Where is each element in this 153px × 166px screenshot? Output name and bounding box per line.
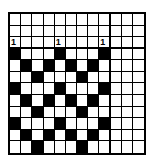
grid-cell <box>133 83 144 95</box>
grid-cell <box>111 37 122 49</box>
grid-cell <box>77 130 88 142</box>
grid-cell-filled <box>88 95 99 107</box>
grid-cell <box>99 26 110 38</box>
grid-cell <box>55 107 66 119</box>
grid-cell <box>133 130 144 142</box>
grid-cell <box>133 26 144 38</box>
grid-cell <box>99 130 110 142</box>
grid-cell <box>111 141 122 153</box>
grid-cell <box>10 95 21 107</box>
grid-cell-filled <box>32 72 43 84</box>
grid-cell <box>55 26 66 38</box>
grid-cell-filled <box>55 83 66 95</box>
grid-cell-filled <box>21 60 32 72</box>
grid-cell <box>21 37 32 49</box>
grid-cell <box>111 60 122 72</box>
grid-cell <box>88 14 99 26</box>
grid-cell <box>88 26 99 38</box>
grid-cell-filled <box>77 107 88 119</box>
grid-cell <box>55 14 66 26</box>
grid-cell <box>55 95 66 107</box>
grid-cell-filled <box>21 95 32 107</box>
grid-cell <box>111 49 122 61</box>
grid-cell <box>66 26 77 38</box>
grid-cell <box>32 37 43 49</box>
grid-cell <box>122 130 133 142</box>
grid-cell <box>88 49 99 61</box>
grid-cell <box>21 118 32 130</box>
grid-cell <box>111 72 122 84</box>
grid-cell <box>122 107 133 119</box>
grid-cell <box>133 118 144 130</box>
grid-cell <box>10 130 21 142</box>
grid-cell <box>111 95 122 107</box>
grid-cell <box>133 72 144 84</box>
grid-cell-filled <box>66 130 77 142</box>
grid-cell-filled <box>10 118 21 130</box>
grid-cell <box>133 49 144 61</box>
grid-cell <box>99 72 110 84</box>
grid-cell <box>111 130 122 142</box>
grid-cell <box>32 60 43 72</box>
grid-cell-filled <box>77 72 88 84</box>
grid-cell-filled <box>32 141 43 153</box>
grid-cell <box>66 37 77 49</box>
grid-cell <box>21 26 32 38</box>
grid-cell <box>21 72 32 84</box>
grid-cell <box>10 107 21 119</box>
grid-cell <box>122 14 133 26</box>
grid-cell <box>122 72 133 84</box>
grid-cell <box>32 118 43 130</box>
grid-cell <box>77 14 88 26</box>
grid-cell <box>21 49 32 61</box>
grid-cell <box>44 118 55 130</box>
grid-cell <box>88 37 99 49</box>
grid-cell <box>32 26 43 38</box>
grid-cell <box>99 60 110 72</box>
grid-cell <box>99 107 110 119</box>
grid-cell <box>77 49 88 61</box>
grid-cell <box>111 26 122 38</box>
grid-cell-filled <box>88 130 99 142</box>
grid-cell-filled <box>32 107 43 119</box>
grid-cell <box>66 107 77 119</box>
grid-cell <box>133 95 144 107</box>
grid-cell <box>44 107 55 119</box>
grid-cell <box>111 118 122 130</box>
grid-cell-filled <box>99 83 110 95</box>
grid-cell <box>66 49 77 61</box>
grid-cell <box>122 83 133 95</box>
grid-cell <box>55 60 66 72</box>
grid-cell-filled <box>99 49 110 61</box>
grid-cell <box>44 14 55 26</box>
cell-label: 1 <box>100 37 105 47</box>
grid-cell <box>21 14 32 26</box>
grid-cell <box>77 95 88 107</box>
grid-cell-filled <box>66 60 77 72</box>
grid-cell <box>77 83 88 95</box>
grid-cell <box>111 14 122 26</box>
cell-label: 1 <box>56 37 61 47</box>
grid-cell <box>32 14 43 26</box>
grid-cell-filled <box>55 118 66 130</box>
grid-cell <box>111 83 122 95</box>
grid-cell <box>66 118 77 130</box>
grid-cell <box>88 107 99 119</box>
grid-cell <box>133 14 144 26</box>
grid-cell <box>32 130 43 142</box>
grid-cell-filled <box>55 49 66 61</box>
grid-cell <box>77 26 88 38</box>
grid-cell <box>133 37 144 49</box>
grid-cell: 1 <box>55 37 66 49</box>
grid-cell-filled <box>44 130 55 142</box>
grid-cell <box>21 141 32 153</box>
grid-cell-filled <box>10 83 21 95</box>
grid-cell-filled <box>44 60 55 72</box>
grid-cell <box>55 141 66 153</box>
pattern-grid: 111 <box>8 12 146 155</box>
grid-cell <box>88 72 99 84</box>
grid-cell <box>133 60 144 72</box>
grid-cell <box>44 83 55 95</box>
grid-cell: 1 <box>10 37 21 49</box>
grid-cell <box>66 83 77 95</box>
